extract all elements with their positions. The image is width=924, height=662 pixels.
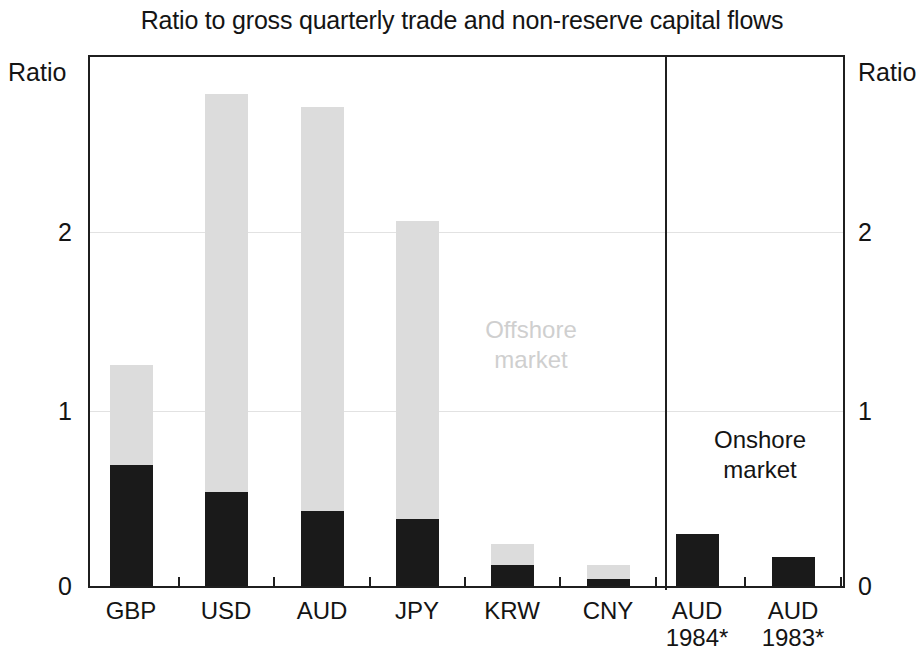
y-tick-label-2: 2 <box>58 218 72 247</box>
bar-segment-onshore <box>491 565 534 586</box>
x-axis-category-label: AUD1983* <box>733 598 853 652</box>
chart-title: Ratio to gross quarterly trade and non-r… <box>0 6 924 35</box>
x-axis-tick <box>178 577 180 586</box>
bar-segment-offshore <box>301 107 344 511</box>
gridline-1 <box>90 411 843 412</box>
bar-segment-onshore <box>587 579 630 586</box>
bar-segment-onshore <box>301 511 344 586</box>
y-tick-label-right-2: 2 <box>858 218 872 247</box>
axis-unit-right: Ratio <box>858 58 916 87</box>
bar-segment-offshore <box>396 221 439 519</box>
x-axis-tick <box>369 577 371 586</box>
category-label-line1: AUD <box>733 598 853 625</box>
annotation-offshore-line1: Offshore <box>466 315 596 345</box>
axis-unit-left: Ratio <box>8 58 66 87</box>
annotation-offshore-line2: market <box>466 345 596 375</box>
chart-root: Ratio to gross quarterly trade and non-r… <box>0 0 924 662</box>
y-tick-label-1: 1 <box>58 397 72 426</box>
x-axis-tick <box>840 577 842 586</box>
bar-segment-offshore <box>205 94 248 492</box>
y-tick-label-0: 0 <box>58 572 72 601</box>
x-axis-tick <box>559 577 561 586</box>
bar-group[interactable] <box>587 565 630 586</box>
bar-segment-onshore <box>676 534 719 586</box>
bar-group[interactable] <box>491 544 534 586</box>
y-tick-label-right-1: 1 <box>858 397 872 426</box>
bar-segment-offshore <box>110 365 153 465</box>
annotation-offshore-market: Offshore market <box>466 315 596 375</box>
bar-segment-offshore <box>491 544 534 565</box>
annotation-onshore-market: Onshore market <box>690 425 830 485</box>
annotation-onshore-line1: Onshore <box>690 425 830 455</box>
gridline-2 <box>90 232 843 233</box>
bar-group[interactable] <box>772 557 815 586</box>
bar-segment-onshore <box>110 465 153 586</box>
bar-group[interactable] <box>396 221 439 586</box>
x-axis-tick <box>273 577 275 586</box>
x-axis-tick <box>744 577 746 586</box>
panel-divider <box>665 57 667 590</box>
x-axis-tick <box>464 577 466 586</box>
bar-group[interactable] <box>676 534 719 586</box>
y-tick-label-right-0: 0 <box>858 572 872 601</box>
bar-segment-onshore <box>772 557 815 586</box>
bar-segment-onshore <box>205 492 248 586</box>
bar-group[interactable] <box>205 94 248 586</box>
bar-group[interactable] <box>110 365 153 586</box>
bar-segment-offshore <box>587 565 630 579</box>
x-axis-tick <box>655 577 657 586</box>
annotation-onshore-line2: market <box>690 455 830 485</box>
category-label-line2: 1983* <box>733 625 853 652</box>
bar-group[interactable] <box>301 107 344 586</box>
bar-segment-onshore <box>396 519 439 586</box>
